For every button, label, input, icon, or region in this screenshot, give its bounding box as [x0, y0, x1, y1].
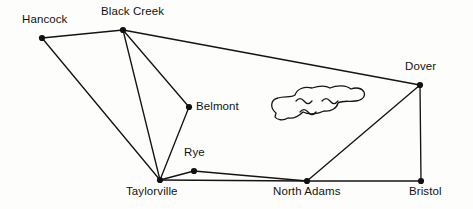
map-diagram: HancockBlack CreekDoverBelmontRyeTaylorv…	[0, 0, 473, 209]
city-label-belmont: Belmont	[196, 101, 239, 113]
node-dot-taylorville[interactable]	[157, 177, 163, 183]
node-dot-rye[interactable]	[191, 168, 197, 174]
lake-features-group	[272, 86, 365, 120]
edge-hancock-black-creek	[42, 30, 123, 38]
city-label-hancock: Hancock	[22, 14, 67, 26]
edge-taylorville-rye	[160, 171, 194, 180]
city-label-rye: Rye	[184, 147, 205, 159]
node-dot-north-adams[interactable]	[304, 178, 310, 184]
edge-taylorville-north-adams	[160, 180, 307, 181]
node-dot-bristol[interactable]	[418, 178, 424, 184]
node-dot-belmont[interactable]	[186, 104, 192, 110]
city-label-black-creek: Black Creek	[101, 6, 164, 18]
node-dot-dover[interactable]	[417, 82, 423, 88]
city-label-bristol: Bristol	[409, 186, 442, 198]
city-label-north-adams: North Adams	[273, 186, 341, 198]
edge-belmont-taylorville	[160, 107, 189, 180]
edge-black-creek-dover	[123, 30, 420, 85]
city-label-taylorville: Taylorville	[126, 186, 178, 198]
node-dot-black-creek[interactable]	[120, 27, 126, 33]
lake-outline	[272, 86, 365, 120]
edge-rye-north-adams	[194, 171, 307, 181]
node-dot-hancock[interactable]	[39, 35, 45, 41]
city-label-dover: Dover	[405, 61, 436, 73]
edge-dover-bristol	[420, 85, 421, 181]
